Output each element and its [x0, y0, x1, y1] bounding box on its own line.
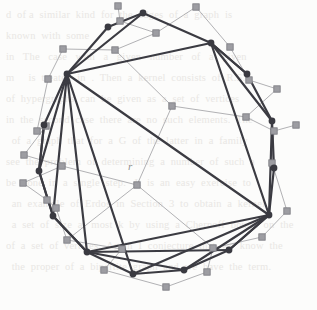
secondary-node-layer: [20, 3, 299, 290]
secondary-edge: [166, 272, 207, 287]
primary-vertex: [36, 168, 43, 175]
primary-edge: [53, 216, 87, 252]
secondary-node: [64, 237, 70, 243]
secondary-edge: [115, 33, 156, 50]
primary-vertex: [181, 267, 188, 274]
primary-vertex: [208, 40, 215, 47]
secondary-node: [259, 234, 265, 240]
primary-edge: [87, 250, 229, 252]
secondary-node: [112, 47, 118, 53]
secondary-node: [204, 269, 210, 275]
primary-vertex: [226, 247, 233, 254]
primary-edge: [39, 171, 53, 216]
secondary-node: [274, 86, 280, 92]
secondary-edge: [137, 106, 172, 185]
secondary-node: [284, 208, 290, 214]
secondary-node: [60, 46, 66, 52]
primary-vertex: [140, 10, 147, 17]
secondary-node: [20, 180, 26, 186]
primary-vertex: [266, 212, 273, 219]
primary-vertex: [244, 71, 251, 78]
primary-edge: [211, 43, 272, 121]
primary-vertex: [64, 71, 71, 78]
secondary-node: [34, 128, 40, 134]
secondary-node: [210, 245, 216, 251]
secondary-node: [153, 30, 159, 36]
primary-edge: [143, 13, 211, 43]
secondary-node: [53, 205, 59, 211]
secondary-node: [59, 163, 65, 169]
secondary-node: [134, 182, 140, 188]
primary-vertex: [41, 122, 48, 129]
primary-edge: [67, 74, 87, 252]
primary-edge: [108, 13, 143, 27]
secondary-node: [163, 284, 169, 290]
secondary-node: [227, 44, 233, 50]
secondary-node: [101, 267, 107, 273]
primary-vertex: [271, 165, 278, 172]
graph-canvas: [0, 0, 317, 310]
primary-vertex: [269, 118, 276, 125]
secondary-edge: [67, 185, 137, 240]
secondary-node: [293, 122, 299, 128]
primary-edge: [229, 215, 269, 250]
secondary-node: [119, 246, 125, 252]
secondary-node: [44, 197, 50, 203]
secondary-node: [169, 103, 175, 109]
secondary-node: [21, 152, 27, 158]
root-label-r: r: [128, 160, 132, 172]
secondary-node: [243, 114, 249, 120]
figure-root: d of a similar kind for the edges of a g…: [0, 0, 317, 310]
secondary-node: [117, 18, 123, 24]
primary-edge: [184, 250, 229, 270]
primary-vertex: [50, 213, 57, 220]
secondary-node: [271, 128, 277, 134]
secondary-edge: [156, 7, 196, 33]
secondary-node: [246, 77, 252, 83]
secondary-edge: [48, 49, 63, 79]
secondary-node: [115, 3, 121, 9]
primary-vertex: [130, 271, 137, 278]
primary-vertex: [84, 249, 91, 256]
primary-edge: [67, 74, 269, 215]
secondary-node: [193, 4, 199, 10]
secondary-node: [45, 76, 51, 82]
primary-vertex: [105, 24, 112, 31]
